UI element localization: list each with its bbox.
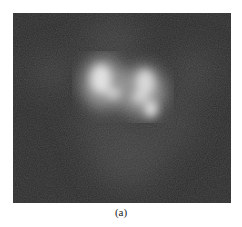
scan-graphic (13, 13, 231, 203)
figure-caption: (a) (0, 206, 242, 218)
scintigraphy-image (13, 13, 231, 203)
